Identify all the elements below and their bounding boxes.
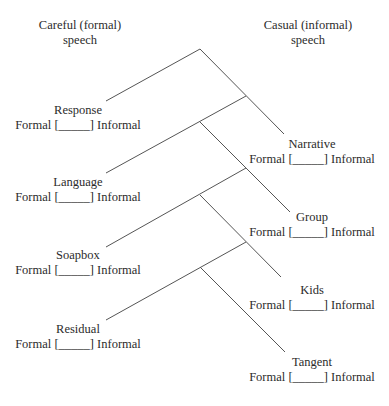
node-label: Narrative xyxy=(249,137,375,152)
branch-narrative xyxy=(200,49,284,134)
header-careful-speech: Careful (formal) speech xyxy=(39,18,121,48)
header-right-line1: Casual (informal) xyxy=(264,18,353,33)
node-label: Kids xyxy=(249,283,375,298)
node-residual: Residual Formal [_____] Informal xyxy=(15,322,141,352)
node-tangent: Tangent Formal [_____] Informal xyxy=(249,355,375,385)
node-soapbox: Soapbox Formal [_____] Informal xyxy=(15,248,141,278)
formality-scale: Formal [_____] Informal xyxy=(249,298,375,313)
node-label: Response xyxy=(15,103,141,118)
branch-group xyxy=(200,122,290,212)
formality-scale: Formal [_____] Informal xyxy=(15,263,141,278)
node-label: Residual xyxy=(15,322,141,337)
formality-scale: Formal [_____] Informal xyxy=(15,118,141,133)
node-language: Language Formal [_____] Informal xyxy=(15,175,141,205)
node-label: Tangent xyxy=(249,355,375,370)
formality-scale: Formal [_____] Informal xyxy=(15,190,141,205)
node-label: Language xyxy=(15,175,141,190)
node-response: Response Formal [_____] Informal xyxy=(15,103,141,133)
formality-scale: Formal [_____] Informal xyxy=(249,370,375,385)
node-label: Soapbox xyxy=(15,248,141,263)
header-casual-speech: Casual (informal) speech xyxy=(264,18,353,48)
formality-scale: Formal [_____] Informal xyxy=(15,337,141,352)
header-right-line2: speech xyxy=(264,33,353,48)
header-left-line1: Careful (formal) xyxy=(39,18,121,33)
header-left-line2: speech xyxy=(39,33,121,48)
formality-scale: Formal [_____] Informal xyxy=(249,225,375,240)
node-group: Group Formal [_____] Informal xyxy=(249,210,375,240)
speech-style-tree-diagram: Careful (formal) speech Casual (informal… xyxy=(0,0,389,406)
node-narrative: Narrative Formal [_____] Informal xyxy=(249,137,375,167)
branch-response xyxy=(106,49,200,101)
node-label: Group xyxy=(249,210,375,225)
formality-scale: Formal [_____] Informal xyxy=(249,152,375,167)
node-kids: Kids Formal [_____] Informal xyxy=(249,283,375,313)
